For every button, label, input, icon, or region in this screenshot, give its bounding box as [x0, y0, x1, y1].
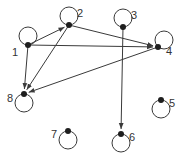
- node-1: [25, 42, 31, 48]
- node-label-1: 1: [12, 46, 18, 58]
- node-label-7: 7: [51, 128, 57, 140]
- edge-1-to-4: [28, 45, 153, 47]
- label-layer: 12345678: [7, 7, 175, 143]
- node-label-8: 8: [7, 92, 13, 104]
- node-5: [158, 97, 164, 103]
- node-label-3: 3: [131, 9, 137, 21]
- node-label-4: 4: [166, 45, 172, 57]
- node-2: [66, 22, 72, 28]
- node-3: [120, 24, 126, 30]
- node-layer: [21, 22, 164, 137]
- edge-1-to-8: [24, 45, 28, 89]
- edge-layer: [24, 25, 158, 129]
- node-label-5: 5: [169, 97, 175, 109]
- node-6: [118, 131, 124, 137]
- edge-4-to-8: [29, 47, 158, 92]
- node-8: [21, 91, 27, 97]
- node-4: [155, 44, 161, 50]
- node-label-6: 6: [129, 131, 135, 143]
- edge-3-to-6: [121, 27, 123, 129]
- node-7: [65, 128, 71, 134]
- self-loop-layer: [15, 7, 173, 152]
- edge-1-to-2: [28, 27, 65, 45]
- edge-2-to-4: [69, 25, 153, 46]
- node-label-2: 2: [77, 7, 83, 19]
- directed-graph: 12345678: [0, 0, 183, 154]
